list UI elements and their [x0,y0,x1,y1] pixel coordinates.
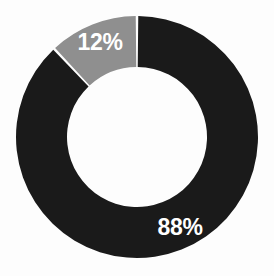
donut-label-major: 88% [157,214,202,240]
donut-chart: 88% 12% [0,0,274,276]
donut-label-minor: 12% [77,29,122,55]
donut-chart-svg: 88% 12% [0,0,274,276]
